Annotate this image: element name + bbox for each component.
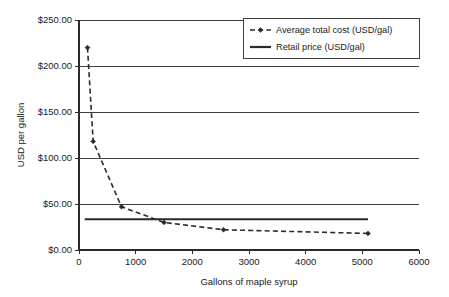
legend-label-0: Average total cost (USD/gal) xyxy=(276,25,392,35)
maple-syrup-cost-chart: $0.00$50.00$100.00$150.00$200.00$250.00 … xyxy=(0,0,449,297)
x-axis-title: Gallons of maple syrup xyxy=(200,276,297,287)
data-point-marker xyxy=(221,227,226,232)
y-tick-marks-group xyxy=(75,20,79,250)
x-tick-label-3000: 3000 xyxy=(238,256,259,267)
data-point-marker xyxy=(85,45,90,50)
x-tick-label-4000: 4000 xyxy=(295,256,316,267)
data-point-marker xyxy=(366,231,371,236)
x-tick-label-6000: 6000 xyxy=(408,256,429,267)
y-axis-title: USD per gallon xyxy=(15,103,26,167)
series-line-0 xyxy=(88,48,369,234)
y-tick-label-50: $50.00 xyxy=(43,198,72,209)
y-tick-label-0: $0.00 xyxy=(48,244,72,255)
x-tick-marks-group xyxy=(79,250,419,254)
x-tick-label-5000: 5000 xyxy=(352,256,373,267)
data-point-marker xyxy=(119,204,124,209)
data-point-marker xyxy=(91,139,96,144)
x-tick-label-2000: 2000 xyxy=(182,256,203,267)
x-tick-label-1000: 1000 xyxy=(125,256,146,267)
chart-legend[interactable]: Average total cost (USD/gal)Retail price… xyxy=(243,18,419,58)
x-tick-label-0: 0 xyxy=(76,256,81,267)
legend-label-1: Retail price (USD/gal) xyxy=(276,42,365,52)
y-tick-label-200: $200.00 xyxy=(38,60,72,71)
y-tick-label-100: $100.00 xyxy=(38,152,72,163)
chart-container: $0.00$50.00$100.00$150.00$200.00$250.00 … xyxy=(0,0,449,297)
x-tick-labels-group: 0100020003000400050006000 xyxy=(76,256,429,267)
y-tick-label-150: $150.00 xyxy=(38,106,72,117)
y-tick-labels-group: $0.00$50.00$100.00$150.00$200.00$250.00 xyxy=(38,14,72,255)
data-point-marker xyxy=(162,220,167,225)
data-series-group xyxy=(85,45,371,236)
y-tick-label-250: $250.00 xyxy=(38,14,72,25)
